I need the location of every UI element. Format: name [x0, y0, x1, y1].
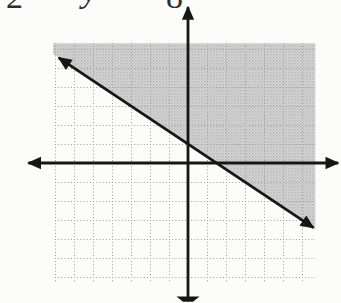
y-axis-bottom-arrowhead-cropped [177, 297, 200, 302]
inequality-graph [0, 0, 341, 303]
scanned-graph-page: 2 y 8 [0, 0, 341, 303]
